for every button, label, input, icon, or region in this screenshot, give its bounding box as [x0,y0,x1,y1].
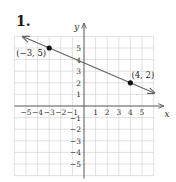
data-point [47,45,52,50]
y-tick-label: 1 [76,90,81,99]
y-tick-label: −4 [70,148,81,157]
coordinate-plane: xy −5−4−3−2−112345−5−4−3−2−112345 (−3, 5… [0,0,176,182]
y-tick-label: 3 [76,67,81,76]
x-tick-label: −3 [44,108,55,117]
point-label: (−3, 5) [16,48,46,58]
x-tick-label: −2 [55,108,66,117]
y-axis-label: y [73,22,80,32]
x-tick-label: 4 [128,108,133,117]
y-tick-label: 2 [76,79,81,88]
y-tick-label: −5 [70,160,81,169]
graph-line [23,37,155,94]
y-tick-label: −2 [70,125,81,134]
x-tick-label: 2 [105,108,110,117]
x-tick-label: 1 [93,108,98,117]
data-points: (−3, 5)(4, 2) [16,45,154,85]
y-tick-label: −1 [70,114,81,123]
point-label: (4, 2) [131,70,154,80]
x-tick-label: 5 [140,108,145,117]
x-tick-label: −5 [20,108,31,117]
x-tick-label: 3 [116,108,121,117]
data-line [23,37,155,94]
data-point [128,80,133,85]
y-tick-label: 5 [76,44,81,53]
x-tick-label: −4 [32,108,43,117]
x-axis-label: x [165,109,170,119]
y-tick-label: −3 [70,137,81,146]
